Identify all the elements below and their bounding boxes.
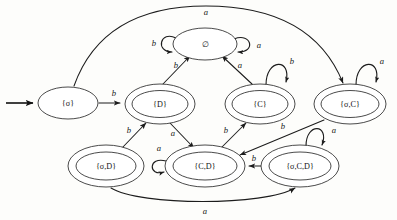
edge-C-to-empty-a: a (222, 56, 252, 84)
automaton-svg: a a b b a b (0, 0, 397, 220)
edge-sigmaD-to-D-b: b (122, 123, 146, 148)
edge-label-empty-loop-b: b (152, 38, 157, 48)
edge-label-sigma-sigmaC: a (204, 7, 208, 17)
state-D[interactable]: {D} (125, 84, 195, 124)
state-C[interactable]: {C} (225, 84, 295, 124)
edge-label-sigmaD-D: b (127, 125, 132, 135)
state-sigmaCD[interactable]: {σ,C,D} (261, 145, 339, 187)
state-sigma[interactable]: {σ} (38, 87, 98, 119)
edge-label-sigmaC-CD: b (281, 121, 286, 131)
automaton-diagram-canvas: a a b b a b (0, 0, 397, 220)
state-CD[interactable]: {C,D} (165, 145, 245, 187)
state-C-label: {C} (253, 100, 266, 109)
edge-empty-loop-b: b (152, 36, 176, 52)
edge-sigmaC-loop-a: a (356, 56, 384, 85)
edge-sigmaD-to-sigmaCD-a: a (111, 188, 295, 216)
edge-label-sigmaCD-CD: b (252, 153, 257, 163)
edge-label-sigmaCD-loop-a: a (332, 125, 336, 135)
state-CD-label: {C,D} (194, 162, 215, 171)
edge-label-CD-loop-a: a (157, 143, 161, 153)
edge-label-C-loop-b: b (290, 56, 295, 66)
state-sigmaD-label: {σ,D} (96, 162, 116, 171)
edge-label-sigmaC-loop-a: a (380, 56, 384, 66)
edge-D-to-CD-a: a (170, 123, 194, 148)
edge-sigma-to-D-b: b (99, 88, 120, 103)
state-sigmaC[interactable]: {σ,C} (314, 84, 386, 124)
edge-D-to-empty-b: b (163, 56, 190, 84)
edge-C-loop-b: b (266, 56, 295, 85)
state-D-label: {D} (153, 100, 167, 109)
edge-label-sigmaD-sigmaCD: a (203, 206, 207, 216)
edge-label-C-empty: a (238, 60, 242, 70)
state-empty[interactable]: ∅ (173, 28, 237, 60)
edge-label-D-empty: b (174, 60, 179, 70)
edge-empty-loop-a: a (234, 38, 261, 52)
state-sigmaD[interactable]: {σ,D} (68, 145, 144, 187)
edge-label-empty-loop-a: a (257, 40, 261, 50)
edge-sigmaCD-to-CD-b: b (249, 153, 261, 166)
state-empty-label: ∅ (202, 40, 209, 49)
edge-label-sigma-D: b (112, 88, 117, 98)
state-sigmaC-label: {σ,C} (340, 100, 360, 109)
edge-label-D-CD: a (171, 128, 175, 138)
edge-CD-to-C-b: b (220, 123, 246, 149)
state-sigma-label: {σ} (62, 99, 74, 108)
edge-label-CD-C: b (224, 125, 229, 135)
edge-sigmaCD-loop-a: a (306, 125, 336, 146)
edge-CD-loop-a: a (152, 143, 166, 173)
state-sigmaCD-label: {σ,C,D} (286, 162, 314, 171)
